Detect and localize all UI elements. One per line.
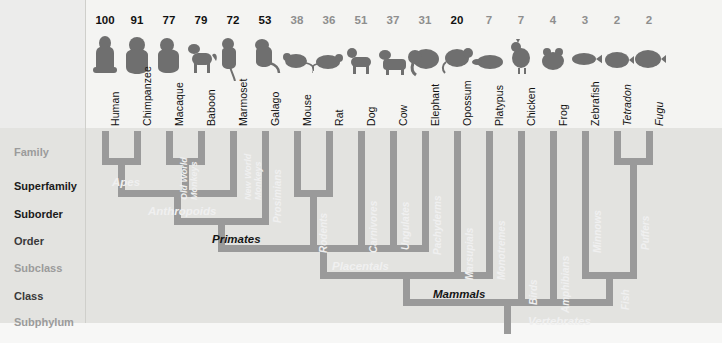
species-label: Chimpanzee	[141, 66, 153, 126]
chicken-icon	[504, 31, 538, 81]
zebrafish-icon	[568, 31, 602, 81]
rat-icon	[312, 31, 346, 81]
opossum-icon	[440, 31, 474, 81]
rank-label-subclass: Subclass	[14, 262, 62, 274]
species-label: Dog	[365, 106, 377, 126]
human-icon	[88, 31, 122, 81]
cow-icon	[376, 31, 410, 81]
species-label: Elephant	[429, 84, 441, 126]
species-label: Cow	[397, 105, 409, 126]
branch-vertical	[486, 131, 493, 279]
macaque-icon	[152, 31, 186, 81]
branch-vertical	[504, 299, 511, 334]
marmoset-icon	[216, 31, 250, 81]
footer-background	[0, 323, 722, 343]
clade-label: Carnivores	[368, 201, 380, 253]
branch-vertical	[310, 190, 317, 252]
clade-label: Marsupials	[464, 228, 476, 280]
tetradon-icon	[600, 31, 634, 81]
species-label: Marmoset	[237, 79, 249, 126]
branch-vertical	[358, 131, 365, 252]
branch-vertical	[422, 131, 429, 252]
clade-label: Prosimians	[272, 169, 284, 223]
clade-label: New WorldMonkeys	[244, 154, 263, 200]
clade-label: Placentals	[332, 260, 389, 272]
species-label: Galago	[269, 92, 281, 126]
frog-icon	[536, 31, 570, 81]
column-divider	[85, 0, 86, 323]
rank-label-family: Family	[14, 146, 49, 158]
rank-label-suborder: Suborder	[14, 208, 63, 220]
rank-label-order: Order	[14, 235, 44, 247]
branch-vertical	[582, 131, 589, 279]
rank-label-superfamily: Superfamily	[14, 180, 77, 192]
clade-label: Fish	[620, 289, 632, 310]
clade-label: Mammals	[433, 288, 485, 300]
baboon-icon	[184, 31, 218, 81]
species-label: Frog	[557, 104, 569, 126]
fugu-icon	[632, 31, 666, 81]
clade-label-line2: Monkeys	[254, 154, 264, 200]
elephant-icon	[408, 31, 442, 81]
clade-label: Amphibians	[560, 256, 572, 313]
species-label: Platypus	[493, 85, 505, 126]
mouse-icon	[280, 31, 314, 81]
conservation-score: 2	[629, 14, 669, 26]
species-label: Opossum	[461, 80, 473, 126]
branch-vertical	[550, 131, 557, 306]
species-label: Mouse	[301, 94, 313, 126]
clade-label: Rodents	[318, 213, 330, 253]
clade-label: Monotremes	[496, 221, 508, 280]
clade-label: Ungulates	[400, 202, 412, 250]
species-label: Zebrafish	[589, 81, 601, 126]
species-label: Fugu	[653, 102, 665, 126]
clade-label: Puffers	[640, 216, 652, 250]
clade-label: Apes	[112, 176, 140, 188]
branch-vertical	[230, 131, 237, 197]
galago-icon	[248, 31, 282, 81]
species-label: Baboon	[205, 89, 217, 126]
dog-icon	[344, 31, 378, 81]
species-label: Chicken	[525, 87, 537, 126]
clade-label: Birds	[528, 279, 540, 305]
branch-vertical	[294, 131, 301, 197]
rank-label-class: Class	[14, 290, 43, 302]
clade-label: Vertebrates	[528, 315, 591, 327]
species-label: Human	[109, 92, 121, 126]
clade-label: Minnows	[592, 210, 604, 253]
clade-label-line2: Monkeys	[190, 157, 200, 200]
phylogenetic-tree-figure: 1009177797253383651373120774322 HumanChi…	[0, 0, 722, 343]
species-label: Macaque	[173, 82, 185, 126]
clade-label: Pachyderms	[432, 196, 444, 255]
clade-label: Primates	[212, 233, 261, 245]
clade-label: Anthropoids	[148, 205, 216, 217]
branch-vertical	[630, 158, 637, 279]
platypus-icon	[472, 31, 506, 81]
branch-vertical	[518, 131, 525, 306]
species-label: Tetradon	[621, 84, 633, 126]
rank-label-subphylum: Subphylum	[14, 316, 74, 328]
species-label: Rat	[333, 109, 345, 126]
clade-label: Old WorldMonkeys	[180, 157, 199, 200]
branch-vertical	[326, 131, 333, 197]
rank-column-header-background	[0, 0, 86, 128]
branch-vertical	[390, 131, 397, 252]
branch-vertical	[454, 131, 461, 279]
